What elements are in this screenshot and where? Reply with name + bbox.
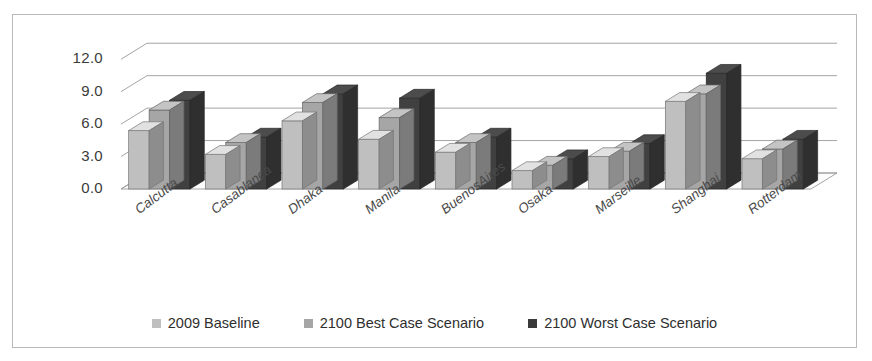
bar-calcutta-series-1 — [129, 122, 164, 189]
bar-manila-series-1 — [359, 130, 394, 189]
bar-marseille-series-1 — [589, 148, 624, 189]
bar-casablanca-series-1 — [205, 146, 240, 189]
chart-legend: 2009 Baseline2100 Best Case Scenario2100… — [13, 315, 856, 331]
chart-frame: 0.03.06.09.012.0 CalcuttaCasablancaDhaka… — [12, 14, 857, 348]
legend-swatch-icon — [152, 319, 161, 328]
y-tick-label-6-0: 6.0 — [47, 114, 103, 131]
gridline-depth-connector — [121, 43, 147, 59]
bar-shanghai-series-1 — [665, 93, 700, 189]
legend-swatch-icon — [528, 319, 537, 328]
legend-item-3[interactable]: 2100 Worst Case Scenario — [528, 315, 717, 331]
legend-item-1[interactable]: 2009 Baseline — [152, 315, 260, 331]
legend-label: 2100 Best Case Scenario — [320, 315, 484, 331]
legend-item-2[interactable]: 2100 Best Case Scenario — [304, 315, 484, 331]
y-tick-label-3-0: 3.0 — [47, 147, 103, 164]
legend-swatch-icon — [304, 319, 313, 328]
bar-chart-svg — [13, 15, 858, 349]
chart-plot-area: 0.03.06.09.012.0 CalcuttaCasablancaDhaka… — [13, 15, 858, 349]
bar-dhaka-series-1 — [282, 112, 317, 189]
y-tick-label-12-0: 12.0 — [47, 49, 103, 66]
gridline-depth-connector — [121, 76, 147, 92]
bar-rotterdam-series-1 — [742, 150, 777, 189]
y-tick-label-9-0: 9.0 — [47, 82, 103, 99]
legend-label: 2009 Baseline — [168, 315, 260, 331]
y-tick-label-0-0: 0.0 — [47, 179, 103, 196]
bar-buenosaires-series-1 — [435, 143, 470, 189]
legend-label: 2100 Worst Case Scenario — [544, 315, 717, 331]
